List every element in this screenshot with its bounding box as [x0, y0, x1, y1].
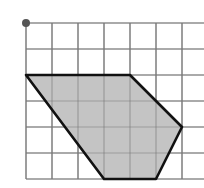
origin-dot — [22, 19, 30, 27]
grid-diagram — [0, 0, 204, 188]
